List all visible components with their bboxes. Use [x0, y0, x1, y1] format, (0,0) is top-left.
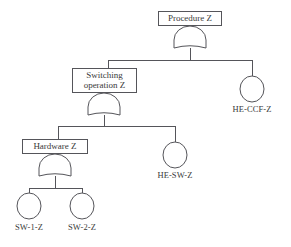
node-hardware-z-label: Hardware Z — [33, 142, 76, 152]
basic-event-circle-he-sw-z — [163, 142, 187, 168]
node-switching-operation-z-label-line2: operation Z — [84, 81, 126, 91]
basic-event-circle-sw-1-z — [17, 193, 41, 219]
node-hardware-z: Hardware Z — [22, 139, 88, 154]
node-switching-operation-z: Switching operation Z — [72, 68, 137, 93]
or-gate-switching — [88, 93, 120, 115]
basic-event-circle-sw-2-z — [70, 193, 94, 219]
or-gate-hardware — [39, 154, 71, 176]
basic-event-circle-he-ccf-z — [240, 76, 264, 102]
or-gate-procedure — [174, 26, 206, 48]
node-procedure-z-label: Procedure Z — [168, 14, 212, 24]
basic-event-label-he-sw-z: HE-SW-Z — [135, 170, 215, 180]
fault-tree-diagram: Procedure Z Switching operation Z Hardwa… — [0, 0, 291, 247]
basic-event-label-he-ccf-z: HE-CCF-Z — [212, 104, 291, 114]
fault-tree-connectors-layer — [0, 0, 291, 247]
basic-event-label-sw-2-z: SW-2-Z — [42, 222, 122, 232]
node-procedure-z: Procedure Z — [158, 11, 222, 26]
